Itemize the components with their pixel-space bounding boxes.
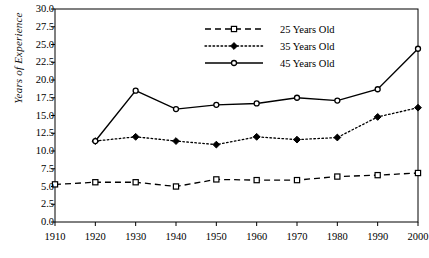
legend-label: 45 Years Old	[280, 58, 335, 69]
data-point-marker	[294, 178, 299, 183]
data-point-marker	[294, 136, 301, 143]
data-point-marker	[174, 107, 179, 112]
x-axis-tick-label: 1980	[317, 232, 357, 243]
y-axis-tick-labels: 0.02.55.07.510.012.515.017.520.022.525.0…	[20, 0, 54, 258]
y-axis-tick-label: 17.5	[22, 93, 54, 104]
data-point-marker	[254, 101, 259, 106]
y-axis-tick-label: 22.5	[22, 57, 54, 68]
x-axis-tick-labels: 1910192019301940195019601970198019902000	[0, 226, 429, 246]
x-axis-tick-label: 1950	[196, 232, 236, 243]
data-point-marker	[173, 184, 178, 189]
data-point-marker	[132, 133, 139, 140]
data-point-marker	[254, 178, 259, 183]
x-axis-tick-label: 1960	[237, 232, 277, 243]
x-axis-tick-label: 1970	[277, 232, 317, 243]
data-point-marker	[133, 180, 138, 185]
data-point-marker	[93, 139, 98, 144]
y-axis-tick-label: 27.5	[22, 22, 54, 33]
data-point-marker	[374, 114, 381, 121]
x-axis-tick-label: 2000	[398, 232, 429, 243]
data-point-marker	[214, 177, 219, 182]
x-axis-tick-label: 1940	[156, 232, 196, 243]
data-point-marker	[253, 133, 260, 140]
series-line-2	[92, 104, 421, 148]
legend-entry: 25 Years Old	[205, 24, 335, 35]
data-point-marker	[335, 174, 340, 179]
legend-marker	[231, 43, 238, 50]
y-axis-tick-label: 2.5	[22, 199, 54, 210]
y-axis-tick-label: 15.0	[22, 111, 54, 122]
data-point-marker	[93, 180, 98, 185]
data-point-marker	[335, 98, 340, 103]
series-line-3	[93, 46, 421, 143]
legend-entry: 45 Years Old	[205, 58, 335, 69]
x-axis-tick-label: 1930	[116, 232, 156, 243]
series-path	[55, 173, 418, 186]
data-point-marker	[375, 87, 380, 92]
y-axis-tick-label: 10.0	[22, 146, 54, 157]
data-point-marker	[173, 138, 180, 145]
data-point-marker	[416, 46, 421, 51]
y-axis-tick-label: 20.0	[22, 75, 54, 86]
data-point-marker	[133, 88, 138, 93]
legend-entry: 35 Years Old	[205, 41, 335, 52]
data-point-marker	[415, 104, 422, 111]
data-point-marker	[295, 95, 300, 100]
y-axis-tick-label: 25.0	[22, 40, 54, 51]
data-point-marker	[375, 173, 380, 178]
plot-area: 25 Years Old35 Years Old45 Years Old	[0, 0, 429, 258]
x-axis-tick-label: 1920	[75, 232, 115, 243]
legend-marker	[231, 26, 236, 31]
x-axis-tick-label: 1910	[35, 232, 75, 243]
y-axis-tick-label: 5.0	[22, 182, 54, 193]
legend-marker	[232, 61, 237, 66]
experience-line-chart: Years of Experience 0.02.55.07.510.012.5…	[0, 0, 429, 258]
series-line-1	[52, 170, 420, 189]
plot-frame	[55, 9, 418, 222]
legend-label: 25 Years Old	[280, 24, 335, 35]
y-axis-tick-label: 12.5	[22, 128, 54, 139]
data-point-marker	[334, 134, 341, 141]
y-axis-tick-label: 30.0	[22, 4, 54, 15]
legend-label: 35 Years Old	[280, 41, 335, 52]
data-point-marker	[415, 170, 420, 175]
legend: 25 Years Old35 Years Old45 Years Old	[205, 24, 335, 69]
data-point-marker	[214, 102, 219, 107]
x-axis-tick-label: 1990	[358, 232, 398, 243]
data-point-marker	[213, 141, 220, 148]
y-axis-tick-label: 7.5	[22, 164, 54, 175]
